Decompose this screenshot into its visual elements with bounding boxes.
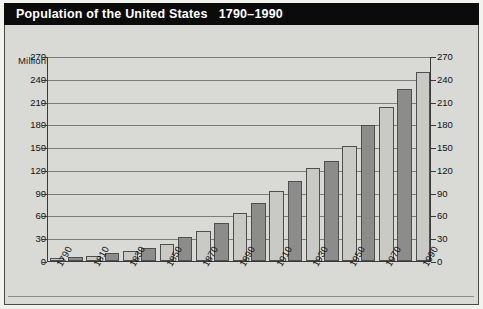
y-axis-right-tick-label-120: 120	[437, 165, 453, 176]
y-axis-right-tick-label-30: 30	[437, 233, 448, 244]
y-axis-left-tick-mark-30	[42, 239, 47, 240]
footer-divider	[8, 296, 474, 297]
x-axis-labels: 1790181018301850187018901910193019501970…	[47, 263, 431, 305]
plot-area	[47, 57, 431, 262]
bar-1940	[324, 161, 339, 261]
y-axis-right-tick-mark-270	[431, 57, 436, 58]
y-axis-left-tick-mark-120	[42, 171, 47, 172]
y-axis-right-tick-label-90: 90	[437, 188, 448, 199]
y-axis-left-tick-mark-270	[42, 57, 47, 58]
y-axis-right-tick-label-270: 270	[437, 51, 453, 62]
y-axis-right-tick-mark-240	[431, 80, 436, 81]
y-axis-right-tick-mark-120	[431, 171, 436, 172]
bar-1960	[361, 125, 376, 261]
y-axis-left-tick-mark-90	[42, 194, 47, 195]
page-title: Population of the United States 1790–199…	[4, 7, 283, 21]
y-axis-left-tick-mark-60	[42, 216, 47, 217]
y-axis-right-tick-mark-210	[431, 103, 436, 104]
bar-1980	[397, 89, 412, 261]
y-axis-right-tick-label-0: 0	[437, 256, 442, 267]
y-axis-right-tick-mark-30	[431, 239, 436, 240]
bar-1970	[379, 107, 394, 261]
y-axis-left-tick-mark-150	[42, 148, 47, 149]
y-axis-left-tick-mark-240	[42, 80, 47, 81]
y-axis-right-tick-mark-60	[431, 216, 436, 217]
y-axis-right-tick-label-60: 60	[437, 210, 448, 221]
population-bar-chart-figure: Population of the United States 1790–199…	[0, 0, 483, 309]
bar-1950	[342, 146, 357, 261]
bars-group	[48, 57, 430, 261]
bar-1990	[416, 72, 431, 261]
chart-title-bar: Population of the United States 1790–199…	[4, 3, 479, 25]
y-axis-right-tick-label-210: 210	[437, 97, 453, 108]
y-axis-right-tick-label-150: 150	[437, 142, 453, 153]
y-axis-left-tick-mark-210	[42, 103, 47, 104]
y-axis-left-tick-mark-180	[42, 125, 47, 126]
y-axis-right-tick-label-180: 180	[437, 119, 453, 130]
bar-1800	[68, 257, 83, 261]
y-axis-right-tick-mark-180	[431, 125, 436, 126]
y-axis-right-tick-mark-150	[431, 148, 436, 149]
y-axis-right-tick-label-240: 240	[437, 74, 453, 85]
y-axis-right-tick-mark-90	[431, 194, 436, 195]
